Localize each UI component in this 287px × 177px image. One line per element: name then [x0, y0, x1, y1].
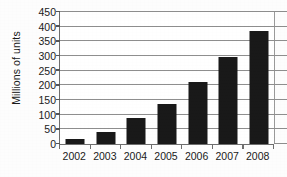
x-axis-tick-mark	[90, 144, 91, 149]
bar-group	[60, 12, 274, 144]
y-axis-tick-label: 150	[20, 95, 56, 106]
x-axis-tick-mark	[242, 144, 243, 149]
bar-slot	[152, 12, 183, 144]
y-axis-right-tick	[274, 84, 287, 85]
bar-slot	[60, 12, 91, 144]
y-axis-tick-label-group: 050100150200250300350400450	[20, 12, 56, 144]
y-axis-tick-label: 250	[20, 65, 56, 76]
bar-slot	[213, 12, 244, 144]
x-axis-tick-mark	[151, 144, 152, 149]
y-axis-tick-label: 350	[20, 36, 56, 47]
bar[interactable]	[157, 104, 176, 144]
x-axis-tick-label: 2006	[185, 150, 208, 162]
x-axis-tick-mark-group	[59, 144, 274, 149]
bar-slot	[243, 12, 274, 144]
y-axis-right-tick	[274, 128, 287, 129]
y-axis-right-tick	[274, 114, 287, 115]
y-axis-tick-label: 0	[20, 139, 56, 150]
x-axis-tick-label: 2004	[124, 150, 147, 162]
y-axis-tick-label: 50	[20, 124, 56, 135]
x-axis-tick-label: 2008	[246, 150, 269, 162]
bar[interactable]	[249, 31, 268, 144]
y-axis-tick-label: 100	[20, 109, 56, 120]
y-axis-tick-label: 400	[20, 21, 56, 32]
bar[interactable]	[127, 118, 146, 144]
y-axis-right-tick	[274, 26, 287, 27]
bar-slot	[91, 12, 122, 144]
x-axis-tick-mark	[273, 144, 274, 149]
bar[interactable]	[188, 82, 207, 144]
x-axis-tick-mark	[212, 144, 213, 149]
x-axis-tick-mark	[120, 144, 121, 149]
bar-chart-figure: Millions of units 0501001502002503003504…	[0, 0, 287, 177]
y-axis-right-tick	[274, 40, 287, 41]
y-axis-tick-label: 300	[20, 51, 56, 62]
y-axis-right-tick	[274, 11, 287, 12]
plot-area	[59, 12, 274, 145]
y-axis-right-tick	[274, 99, 287, 100]
x-axis-tick-label: 2003	[93, 150, 116, 162]
x-axis-tick-label: 2007	[215, 150, 238, 162]
x-axis-tick-label: 2002	[63, 150, 86, 162]
plot-right-frame	[274, 12, 275, 144]
bar-slot	[121, 12, 152, 144]
y-axis-tick-label: 200	[20, 80, 56, 91]
y-axis-right-tick	[274, 70, 287, 71]
y-axis-tick-label: 450	[20, 7, 56, 18]
x-axis-tick-label: 2005	[154, 150, 177, 162]
bar-slot	[182, 12, 213, 144]
y-axis-right-tick	[274, 143, 287, 144]
x-axis-tick-mark	[181, 144, 182, 149]
x-axis-tick-mark	[59, 144, 60, 149]
y-axis-right-tick	[274, 55, 287, 56]
x-axis-tick-label-group: 2002200320042005200620072008	[59, 150, 274, 166]
bar[interactable]	[96, 132, 115, 144]
bar[interactable]	[219, 57, 238, 144]
